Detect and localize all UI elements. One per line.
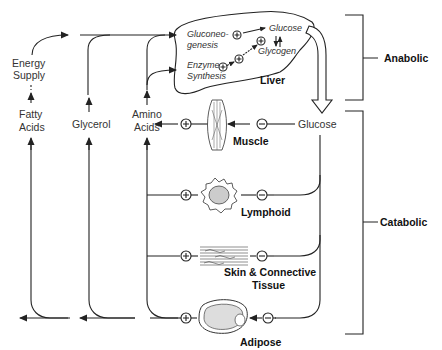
anabolic-label: Anabolic — [384, 52, 428, 64]
plus-icon — [219, 63, 227, 71]
plus-icon — [181, 251, 191, 261]
minus-icon — [257, 190, 267, 200]
plus-icon — [181, 313, 191, 323]
skin-connective-label-2: Tissue — [252, 279, 285, 291]
adipose-label: Adipose — [240, 336, 282, 348]
fatty-acids-label-2: Acids — [19, 121, 45, 133]
catabolic-label: Catabolic — [380, 216, 427, 228]
skin-connective-tissue-icon — [200, 247, 248, 265]
energy-supply-label-2: Supply — [13, 69, 46, 81]
plus-icon — [257, 37, 265, 45]
minus-icon — [257, 119, 267, 129]
muscle-tissue-icon — [208, 100, 227, 150]
plus-icon — [235, 55, 243, 63]
minus-icon — [263, 313, 273, 323]
anabolic-bracket — [345, 15, 378, 100]
lymphoid-label: Lymphoid — [241, 206, 291, 218]
adipose-cell-icon — [199, 300, 247, 334]
glucose-label: Glucose — [298, 118, 337, 130]
glycogen-label: Glycogen — [258, 46, 296, 56]
plus-icon — [181, 190, 191, 200]
enzyme-synthesis-label-2: Synthesis — [187, 71, 227, 81]
fatty-acids-label: Fatty — [19, 108, 43, 120]
liver-glucose-label: Glucose — [269, 23, 302, 33]
skin-connective-label: Skin & Connective — [224, 266, 316, 278]
enzyme-synthesis-label: Enzyme — [187, 60, 220, 70]
energy-supply-label: Energy — [12, 57, 46, 69]
lymphoid-cell-icon — [201, 178, 237, 213]
catabolic-bracket — [345, 111, 378, 334]
muscle-label: Muscle — [233, 135, 269, 147]
gluconeogenesis-label-2: genesis — [187, 40, 219, 50]
metabolism-diagram: Gluconeo- genesis Enzyme Synthesis Gluco… — [0, 0, 442, 350]
gluconeogenesis-label: Gluconeo- — [187, 29, 229, 39]
minus-icon — [257, 251, 267, 261]
glycerol-label: Glycerol — [72, 118, 111, 130]
amino-acids-label: Amino — [132, 108, 162, 120]
amino-acids-label-2: Acids — [134, 121, 160, 133]
plus-icon — [181, 119, 191, 129]
plus-icon — [233, 31, 241, 39]
liver-label: Liver — [260, 74, 285, 86]
